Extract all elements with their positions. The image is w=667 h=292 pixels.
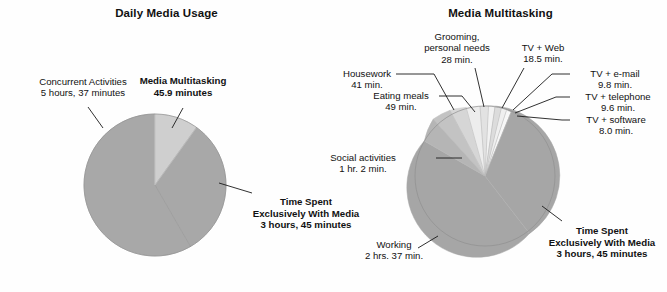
label-eating-meals-name: Eating meals (362, 90, 440, 101)
leader-line-tv-web (502, 68, 524, 108)
label-tv-web-value: 18.5 min. (500, 53, 586, 64)
label-tv-web-name: TV + Web (500, 42, 586, 53)
label-tv-software-name: TV + software (566, 114, 666, 125)
label-time-spent-exclusively-line2: Exclusively With Media (538, 237, 666, 249)
leader-line-tv-telephone (515, 97, 556, 113)
label-tv-email: TV + e-mail 9.8 min. (566, 68, 664, 91)
figure-canvas: Daily Media Usage (0, 0, 667, 292)
label-housework: Housework 41 min. (336, 68, 398, 91)
label-working-value: 2 hrs. 37 min. (342, 250, 446, 261)
label-social-activities: Social activities 1 hr. 2 min. (292, 152, 434, 175)
label-media-multitasking-value: 45.9 minutes (110, 87, 256, 99)
label-media-multitasking: Media Multitasking 45.9 minutes (110, 75, 256, 98)
label-time-spent-exclusively-line1: Time Spent (538, 225, 666, 237)
pie-slices-right (407, 106, 560, 257)
pie-slices-left (84, 114, 226, 256)
label-media-multitasking-name: Media Multitasking (110, 75, 256, 87)
label-tv-telephone-name: TV + telephone (566, 91, 667, 102)
label-tv-software: TV + software 8.0 min. (566, 114, 666, 137)
label-time-spent-exclusively-line3: 3 hours, 45 minutes (538, 248, 666, 260)
label-eating-meals-value: 49 min. (362, 101, 440, 112)
label-grooming-line1: Grooming, (377, 31, 537, 42)
label-time-spent-exclusively: Time Spent Exclusively With Media 3 hour… (538, 225, 666, 260)
label-tv-email-name: TV + e-mail (566, 68, 664, 79)
label-tv-email-value: 9.8 min. (566, 79, 664, 90)
leader-line-concurrent-activities (88, 107, 103, 128)
pie-chart-daily-media-usage (0, 0, 333, 292)
chart-panel-daily-media-usage: Daily Media Usage (0, 0, 333, 292)
label-social-activities-value: 1 hr. 2 min. (292, 163, 434, 174)
label-tv-web: TV + Web 18.5 min. (500, 42, 586, 65)
label-tv-telephone: TV + telephone 9.6 min. (566, 91, 667, 114)
label-tv-telephone-value: 9.6 min. (566, 102, 667, 113)
label-housework-name: Housework (336, 68, 398, 79)
label-working-name: Working (342, 239, 446, 250)
label-working: Working 2 hrs. 37 min. (342, 239, 446, 262)
label-social-activities-name: Social activities (292, 152, 434, 163)
chart-panel-media-multitasking: Media Multitasking (334, 0, 667, 292)
leader-line-tv-email (513, 74, 552, 110)
label-tv-software-value: 8.0 min. (566, 125, 666, 136)
leader-line-grooming (475, 68, 484, 107)
label-eating-meals: Eating meals 49 min. (362, 90, 440, 113)
